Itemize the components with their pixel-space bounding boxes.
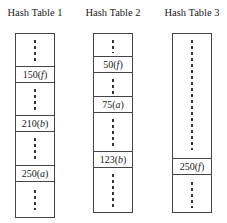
hash-table-1: 150(f) 210(b) 250(a) — [15, 33, 55, 218]
table-entry: 250(f) — [173, 158, 211, 175]
table-entry: 123(b) — [94, 151, 132, 168]
hash-table-2: 50(f) 75(a) 123(b) — [93, 33, 133, 213]
ellipsis-dots — [34, 190, 36, 210]
entry-key: 210 — [22, 118, 37, 129]
entry-key: 250 — [22, 168, 37, 179]
ellipsis-dots — [191, 182, 193, 208]
ellipsis-dots — [191, 40, 193, 150]
entry-tag: a — [116, 99, 121, 110]
table-entry: 210(b) — [16, 115, 54, 132]
entry-tag: f — [198, 161, 201, 172]
entry-tag: f — [41, 69, 44, 80]
entry-key: 75 — [102, 99, 112, 110]
ellipsis-dots — [112, 174, 114, 207]
table-entry: 250(a) — [16, 165, 54, 182]
hash-table-2-title: Hash Table 2 — [85, 7, 140, 18]
table-entry: 75(a) — [94, 96, 132, 113]
ellipsis-dots — [112, 119, 114, 149]
entry-tag: b — [118, 154, 123, 165]
ellipsis-dots — [112, 40, 114, 53]
hash-table-3: 250(f) — [172, 33, 212, 213]
ellipsis-dots — [112, 79, 114, 97]
ellipsis-dots — [34, 40, 36, 62]
hash-table-3-title: Hash Table 3 — [164, 7, 219, 18]
ellipsis-dots — [34, 138, 36, 162]
entry-tag: b — [40, 118, 45, 129]
entry-tag: f — [117, 59, 120, 70]
entry-key: 150 — [23, 69, 38, 80]
ellipsis-dots — [34, 89, 36, 113]
table-entry: 50(f) — [94, 56, 132, 73]
table-entry: 150(f) — [16, 66, 54, 83]
entry-key: 123 — [100, 154, 115, 165]
entry-key: 50 — [103, 59, 113, 70]
entry-key: 250 — [180, 161, 195, 172]
hash-table-1-title: Hash Table 1 — [7, 7, 62, 18]
entry-tag: a — [40, 168, 45, 179]
